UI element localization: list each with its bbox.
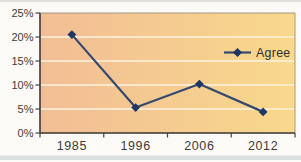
y-axis-tick-label: 0% <box>18 127 34 139</box>
legend-label: Agree <box>256 46 291 60</box>
y-axis-tick-label: 25% <box>11 7 33 19</box>
y-axis-tick-label: 15% <box>11 55 33 67</box>
x-axis-tick-label: 1996 <box>121 139 151 153</box>
y-axis-tick-label: 5% <box>18 103 34 115</box>
line-chart: 0%5%10%15%20%25%1985199620062012 Agree <box>0 0 301 162</box>
x-axis-tick-label: 2006 <box>184 139 214 153</box>
y-axis-tick-label: 20% <box>11 31 33 43</box>
x-axis-tick-label: 2012 <box>248 139 278 153</box>
y-axis-tick-label: 10% <box>11 79 33 91</box>
scan-edge-top <box>0 0 301 2</box>
plot-area <box>40 13 295 133</box>
scan-edge-bottom <box>0 156 301 161</box>
x-axis-tick-label: 1985 <box>57 139 87 153</box>
